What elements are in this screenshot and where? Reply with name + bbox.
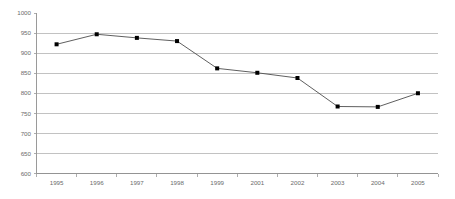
x-tick-label-1996: 1996 [90,179,104,186]
x-tick-label-2002: 2002 [291,179,305,186]
data-point-1996 [95,32,99,36]
x-tick-label-1999: 1999 [210,179,224,186]
gridlines [37,33,439,173]
x-tick-label-2003: 2003 [331,179,345,186]
data-point-2004 [376,105,380,109]
data-point-2005 [416,91,420,95]
line-chart: 6006507007508008509009501000 19951996199… [0,0,455,199]
x-tick-label-1995: 1995 [50,179,64,186]
y-tick-label-650: 650 [21,150,32,157]
y-tick-labels: 6006507007508008509009501000 [17,9,31,177]
x-tick-label-2001: 2001 [250,179,264,186]
chart-canvas: 6006507007508008509009501000 19951996199… [0,0,455,199]
x-tick-label-1997: 1997 [130,179,144,186]
data-point-1998 [175,39,179,43]
data-point-1997 [135,36,139,40]
data-series [57,34,418,107]
data-point-2002 [295,76,299,80]
x-tick-label-2005: 2005 [411,179,425,186]
y-tick-label-900: 900 [21,49,32,56]
y-tick-label-1000: 1000 [17,9,31,16]
y-tick-label-600: 600 [21,170,32,177]
x-tick-labels: 1995199619971998199920012002200320042005 [50,179,426,186]
y-tick-label-750: 750 [21,110,32,117]
data-point-1995 [55,42,59,46]
y-tick-label-950: 950 [21,29,32,36]
x-axis [37,174,439,177]
data-point-2003 [336,104,340,108]
x-tick-label-2004: 2004 [371,179,385,186]
y-tick-label-700: 700 [21,130,32,137]
series-line [57,34,418,107]
y-axis [34,13,37,174]
y-tick-label-800: 800 [21,89,32,96]
data-point-2001 [255,71,259,75]
x-tick-label-1998: 1998 [170,179,184,186]
y-tick-label-850: 850 [21,69,32,76]
data-point-1999 [215,66,219,70]
